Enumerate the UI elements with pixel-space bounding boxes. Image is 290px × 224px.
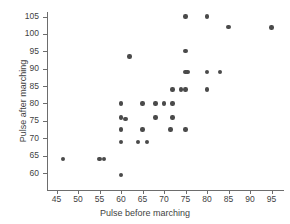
- y-axis-tick: [43, 86, 47, 87]
- x-axis-tick-label: 85: [217, 195, 241, 204]
- scatter-point: [183, 49, 187, 53]
- x-axis-tick-label: 70: [152, 195, 176, 204]
- scatter-point: [102, 157, 106, 161]
- scatter-point: [183, 87, 187, 91]
- x-axis-tick-label: 60: [109, 195, 133, 204]
- scatter-point: [170, 87, 174, 91]
- y-axis-tick: [43, 51, 47, 52]
- scatter-point: [119, 173, 123, 177]
- y-axis-tick: [43, 17, 47, 18]
- x-axis-tick-label: 55: [88, 195, 112, 204]
- scatter-point: [127, 54, 131, 58]
- y-axis-tick: [43, 34, 47, 35]
- y-axis-tick: [43, 103, 47, 104]
- y-axis-tick: [43, 138, 47, 139]
- y-axis-tick-label: 105: [11, 12, 39, 21]
- scatter-point: [170, 101, 174, 105]
- scatter-point: [183, 14, 187, 18]
- y-axis-tick-label: 95: [11, 47, 39, 56]
- scatter-point: [168, 127, 172, 131]
- scatter-point: [218, 70, 222, 74]
- scatter-point: [61, 157, 65, 161]
- scatter-point: [153, 101, 157, 105]
- y-axis-tick: [43, 121, 47, 122]
- y-axis-tick-label: 65: [11, 151, 39, 160]
- y-axis-tick: [43, 69, 47, 70]
- x-axis-tick-label: 80: [195, 195, 219, 204]
- scatter-point: [205, 70, 209, 74]
- scatter-point: [162, 101, 166, 105]
- scatter-point: [269, 25, 273, 29]
- x-axis-tick-label: 65: [131, 195, 155, 204]
- x-axis-tick-label: 90: [238, 195, 262, 204]
- x-axis-tick-label: 95: [260, 195, 284, 204]
- y-axis-tick-label: 80: [11, 99, 39, 108]
- scatter-point: [185, 70, 189, 74]
- y-axis-tick-label: 90: [11, 64, 39, 73]
- scatter-point: [136, 140, 140, 144]
- scatter-chart: Pulse before marching Pulse after marchi…: [0, 0, 290, 224]
- scatter-point: [145, 140, 149, 144]
- x-axis-tick-label: 50: [66, 195, 90, 204]
- y-axis-tick-label: 70: [11, 134, 39, 143]
- scatter-point: [153, 115, 157, 119]
- x-axis-title: Pulse before marching: [0, 208, 290, 218]
- scatter-point: [205, 14, 209, 18]
- y-axis-tick-label: 100: [11, 29, 39, 38]
- x-axis-tick-label: 75: [174, 195, 198, 204]
- scatter-point: [119, 101, 123, 105]
- y-axis-tick-label: 85: [11, 82, 39, 91]
- scatter-point: [183, 127, 187, 131]
- scatter-point: [140, 101, 144, 105]
- scatter-point: [119, 127, 123, 131]
- y-axis-tick-label: 75: [11, 116, 39, 125]
- scatter-point: [119, 140, 123, 144]
- scatter-point: [205, 87, 209, 91]
- y-axis-tick: [43, 156, 47, 157]
- x-axis-tick-label: 45: [45, 195, 69, 204]
- scatter-point: [226, 25, 230, 29]
- y-axis-tick-label: 60: [11, 169, 39, 178]
- y-axis-tick: [43, 173, 47, 174]
- scatter-point: [140, 127, 144, 131]
- scatter-point: [123, 117, 127, 121]
- scatter-point: [170, 115, 174, 119]
